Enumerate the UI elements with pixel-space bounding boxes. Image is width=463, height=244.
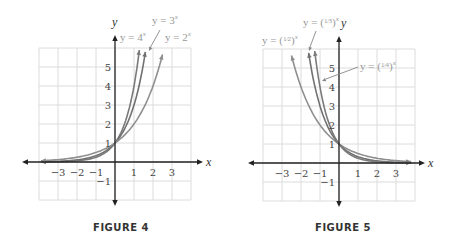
x-tick-label: −3 xyxy=(275,168,290,179)
y-tick-label: 4 xyxy=(105,81,111,92)
y-tick-label: 5 xyxy=(105,62,111,73)
x-tick-label: 3 xyxy=(169,167,175,178)
x-axis-label: x xyxy=(205,155,212,169)
y-axis-label: y xyxy=(340,16,347,30)
figure-5-caption: FIGURE 5 xyxy=(315,222,371,233)
curve-label: y = 2x xyxy=(165,30,192,43)
y-tick-label: −1 xyxy=(320,177,335,188)
arrowhead-icon xyxy=(322,78,326,81)
y-tick-label: 1 xyxy=(329,139,335,150)
y-tick-label: 2 xyxy=(105,119,111,130)
curve-label: y = (1⁄4)x xyxy=(360,59,397,73)
x-axis-label: x xyxy=(427,156,434,170)
arrowhead-icon xyxy=(248,160,254,165)
figure-4-chart: −3−2−1123−112345xyy = 4xy = 3xy = 2x xyxy=(22,13,212,206)
x-tick-label: 3 xyxy=(393,168,399,179)
x-tick-label: −2 xyxy=(70,167,85,178)
x-tick-label: −2 xyxy=(294,168,309,179)
arrowhead-icon xyxy=(197,159,203,164)
y-tick-label: 3 xyxy=(105,100,111,111)
curve-fig5-0 xyxy=(292,56,412,162)
arrowhead-icon xyxy=(112,35,117,41)
y-tick-label: 4 xyxy=(329,82,335,93)
arrowhead-icon xyxy=(419,160,425,165)
curve-label: y = 3x xyxy=(152,13,179,26)
figure-4-caption: FIGURE 4 xyxy=(93,222,149,233)
leader-line xyxy=(310,31,316,47)
y-tick-label: −1 xyxy=(96,176,111,187)
y-axis-label: y xyxy=(111,15,118,29)
figure-5-chart: −3−2−1123−112345xyy = (1⁄2)xy = (1⁄3)xy … xyxy=(248,15,434,207)
x-tick-label: 2 xyxy=(150,167,156,178)
arrowhead-icon xyxy=(336,201,341,207)
leader-line xyxy=(150,30,160,48)
x-tick-label: 1 xyxy=(131,167,137,178)
figures-canvas: −3−2−1123−112345xyy = 4xy = 3xy = 2x −3−… xyxy=(0,0,463,244)
arrowhead-icon xyxy=(22,159,28,164)
y-tick-label: 3 xyxy=(329,101,335,112)
y-tick-label: 1 xyxy=(105,138,111,149)
curve-label: y = (1⁄3)x xyxy=(303,15,340,29)
curve-label: y = 4x xyxy=(120,30,147,43)
x-tick-label: −3 xyxy=(51,167,66,178)
y-tick-label: 2 xyxy=(329,120,335,131)
curve-label: y = (1⁄2)x xyxy=(262,33,299,47)
arrowhead-icon xyxy=(112,200,117,206)
x-tick-label: 2 xyxy=(374,168,380,179)
y-tick-label: 5 xyxy=(329,63,335,74)
curve-fig4-2 xyxy=(41,55,163,161)
arrowhead-icon xyxy=(336,36,341,42)
x-tick-label: 1 xyxy=(355,168,361,179)
